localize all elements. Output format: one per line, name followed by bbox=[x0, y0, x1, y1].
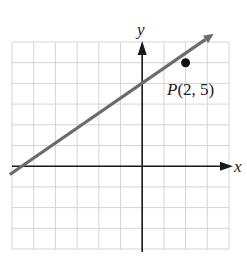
point-label: P(2, 5) bbox=[166, 80, 214, 99]
axes bbox=[12, 41, 233, 252]
data-points bbox=[181, 58, 190, 67]
y-axis-arrow-icon bbox=[138, 41, 147, 55]
y-axis-label: y bbox=[135, 20, 145, 39]
x-axis-arrow-icon bbox=[220, 162, 233, 171]
series-line bbox=[10, 39, 206, 174]
coordinate-plane: x y P(2, 5) bbox=[0, 0, 247, 264]
point-coords: (2, 5) bbox=[177, 80, 214, 99]
point-marker bbox=[181, 58, 190, 67]
point-name: P bbox=[166, 80, 177, 99]
x-axis-label: x bbox=[233, 157, 242, 176]
grid bbox=[12, 42, 229, 249]
